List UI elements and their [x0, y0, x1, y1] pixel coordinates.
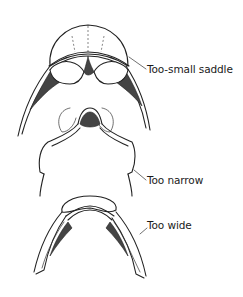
too-wide-illustration [34, 196, 146, 278]
leader-line-too-small [129, 57, 146, 69]
label-too-narrow: Too narrow [147, 174, 203, 186]
saddle-illustrations [0, 0, 243, 297]
label-too-wide: Too wide [147, 219, 192, 231]
label-too-small-saddle: Too-small saddle [147, 63, 233, 75]
leader-line-too-wide [140, 228, 147, 234]
saddle-fit-diagram: Too-small saddle Too narrow Too wide [0, 0, 243, 297]
too-narrow-illustration [39, 108, 135, 196]
leader-line-too-narrow [134, 170, 146, 180]
